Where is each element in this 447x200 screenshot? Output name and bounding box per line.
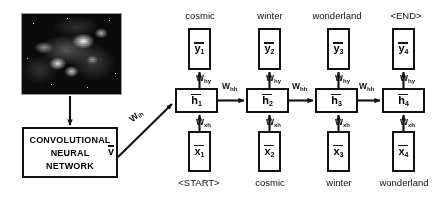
arrow-cnn-to-hidden-1 [118, 104, 172, 157]
figure-canvas: CONVOLUTIONAL NEURAL NETWORK v cosmic wi… [0, 0, 447, 200]
connection-arrows [0, 0, 447, 200]
